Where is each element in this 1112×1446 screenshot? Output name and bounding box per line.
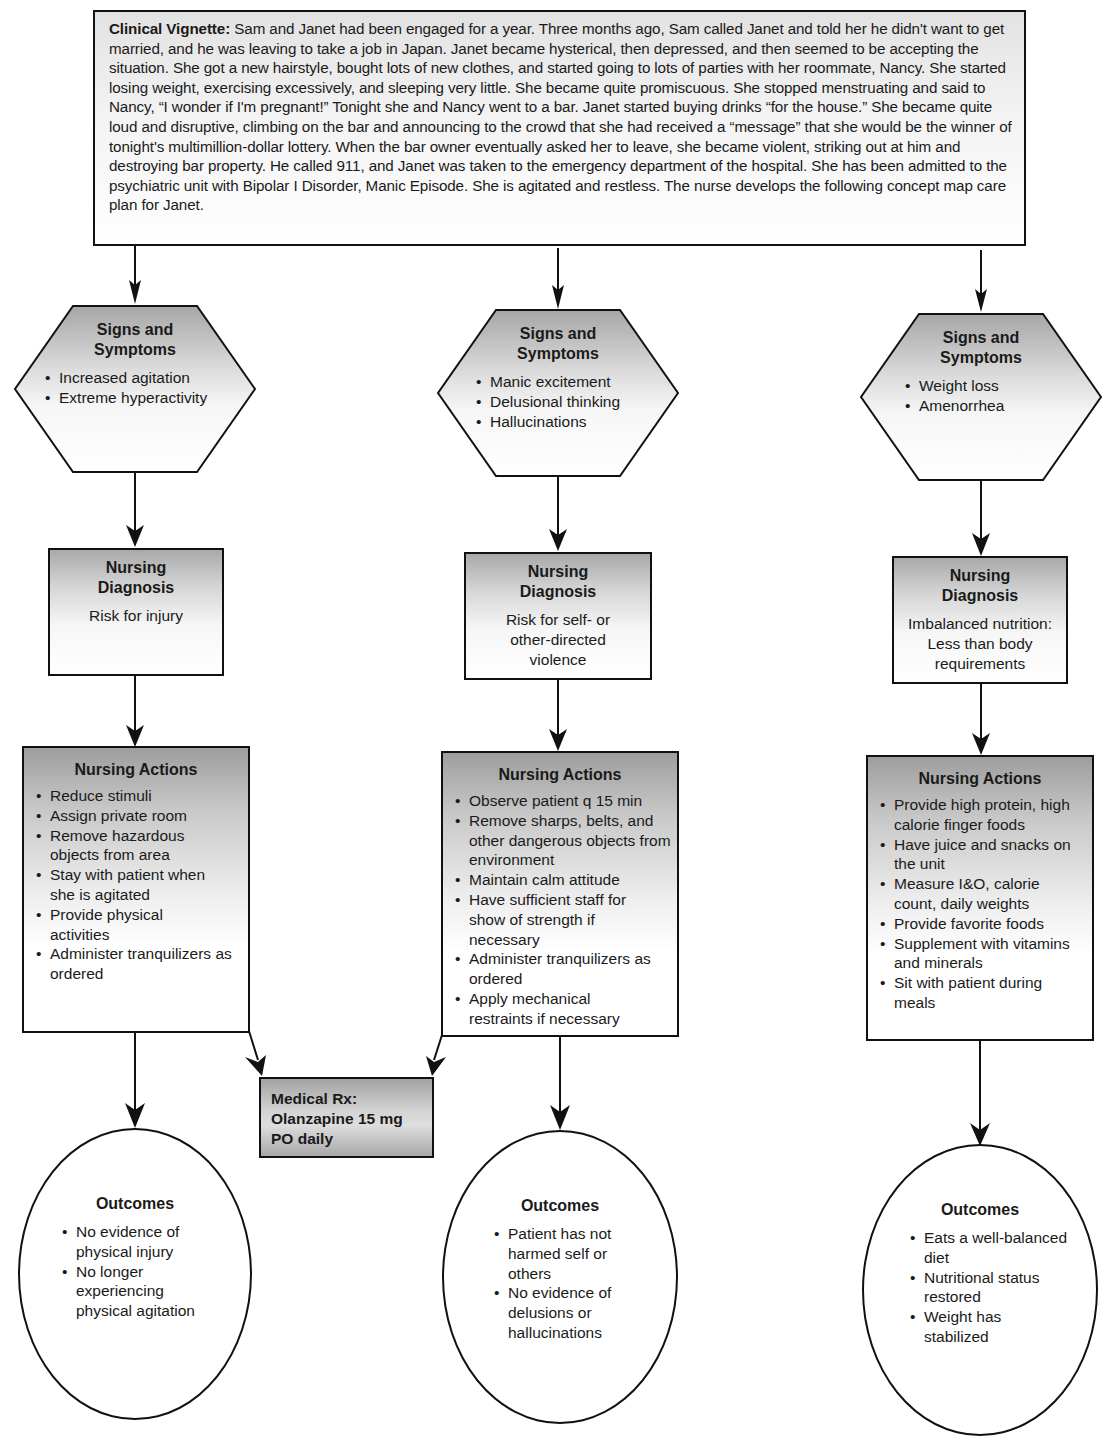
outcome-item: Weight has stabilized <box>908 1307 1034 1347</box>
actions-list: Provide high protein, high calorie finge… <box>878 795 1082 1013</box>
nursing-diagnosis-box-3: Nursing Diagnosis Imbalanced nutrition: … <box>892 556 1068 684</box>
signs-symptoms-hexagon-1: Signs and Symptoms Increased agitation E… <box>13 304 257 474</box>
outcomes-oval-2: Outcomes Patient has not harmed self or … <box>442 1130 678 1424</box>
action-item: Sit with patient during meals <box>878 973 1079 1013</box>
signs-title: Signs and Symptoms <box>926 328 1036 368</box>
sign-item: Weight loss <box>903 376 1103 396</box>
nursing-diagnosis-box-2: Nursing Diagnosis Risk for self- or othe… <box>464 552 652 680</box>
sign-item: Amenorrhea <box>903 396 1103 416</box>
medical-rx-drug: Olanzapine 15 mg <box>271 1109 422 1129</box>
medical-rx-label: Medical Rx: <box>271 1089 422 1109</box>
action-item: Remove sharps, belts, and other dangerou… <box>453 811 674 870</box>
diagnosis-title: Nursing Diagnosis <box>508 562 608 602</box>
signs-title: Signs and Symptoms <box>503 324 613 364</box>
action-item: Have juice and snacks on the unit <box>878 835 1084 875</box>
action-item: Administer tranquilizers as ordered <box>453 949 669 989</box>
action-item: Apply mechanical restraints if necessary <box>453 989 654 1029</box>
action-item: Stay with patient when she is agitated <box>34 865 232 905</box>
action-item: Provide favorite foods <box>878 914 1082 934</box>
outcomes-title: Outcomes <box>444 1196 676 1216</box>
actions-title: Nursing Actions <box>453 765 667 785</box>
action-item: Observe patient q 15 min <box>453 791 667 811</box>
actions-title: Nursing Actions <box>878 769 1082 789</box>
outcome-item: Eats a well-balanced diet <box>908 1228 1074 1268</box>
vignette-text: Sam and Janet had been engaged for a yea… <box>109 20 1012 213</box>
signs-symptoms-hexagon-2: Signs and Symptoms Manic excitement Delu… <box>436 308 680 478</box>
sign-item: Manic excitement <box>474 372 680 392</box>
medical-rx-route: PO daily <box>271 1129 422 1149</box>
signs-list: Increased agitation Extreme hyperactivit… <box>43 368 257 408</box>
action-item: Administer tranquilizers as ordered <box>34 944 250 984</box>
action-item: Assign private room <box>34 806 238 826</box>
outcomes-list: No evidence of physical injury No longer… <box>60 1222 225 1321</box>
action-item: Maintain calm attitude <box>453 870 667 890</box>
actions-title: Nursing Actions <box>34 760 238 780</box>
signs-list: Manic excitement Delusional thinking Hal… <box>474 372 680 431</box>
actions-list: Observe patient q 15 min Remove sharps, … <box>453 791 667 1029</box>
actions-list: Reduce stimuli Assign private room Remov… <box>34 786 238 984</box>
outcomes-oval-3: Outcomes Eats a well-balanced diet Nutri… <box>862 1144 1098 1436</box>
action-item: Provide physical activities <box>34 905 200 945</box>
outcome-item: No longer experiencing physical agitatio… <box>60 1262 216 1321</box>
outcomes-list: Eats a well-balanced diet Nutritional st… <box>908 1228 1058 1347</box>
medical-rx-box: Medical Rx: Olanzapine 15 mg PO daily <box>259 1077 434 1158</box>
outcomes-title: Outcomes <box>864 1200 1096 1220</box>
outcome-item: Nutritional status restored <box>908 1268 1074 1308</box>
outcomes-list: Patient has not harmed self or others No… <box>492 1224 637 1343</box>
nursing-actions-box-3: Nursing Actions Provide high protein, hi… <box>866 755 1094 1041</box>
sign-item: Hallucinations <box>474 412 680 432</box>
action-item: Have sufficient staff for show of streng… <box>453 890 654 949</box>
outcome-item: No evidence of delusions or hallucinatio… <box>492 1283 633 1342</box>
diagnosis-text: Risk for self- or other-directed violenc… <box>493 610 623 670</box>
signs-list: Weight loss Amenorrhea <box>903 376 1103 416</box>
vignette-label: Clinical Vignette: <box>109 20 230 37</box>
clinical-vignette: Clinical Vignette: Sam and Janet had bee… <box>93 10 1026 246</box>
action-item: Measure I&O, calorie count, daily weight… <box>878 874 1069 914</box>
diagnosis-text: Imbalanced nutrition: Less than body req… <box>895 614 1065 674</box>
sign-item: Delusional thinking <box>474 392 680 412</box>
sign-item: Extreme hyperactivity <box>43 388 257 408</box>
diagnosis-title: Nursing Diagnosis <box>86 558 186 598</box>
action-item: Reduce stimuli <box>34 786 238 806</box>
outcome-item: Patient has not harmed self or others <box>492 1224 633 1283</box>
action-item: Provide high protein, high calorie finge… <box>878 795 1094 835</box>
nursing-diagnosis-box-1: Nursing Diagnosis Risk for injury <box>48 548 224 676</box>
outcomes-title: Outcomes <box>20 1194 250 1214</box>
signs-title: Signs and Symptoms <box>80 320 190 360</box>
diagnosis-title: Nursing Diagnosis <box>930 566 1030 606</box>
outcome-item: No evidence of physical injury <box>60 1222 201 1262</box>
action-item: Remove hazardous objects from area <box>34 826 200 866</box>
action-item: Supplement with vitamins and minerals <box>878 934 1084 974</box>
nursing-actions-box-2: Nursing Actions Observe patient q 15 min… <box>441 751 679 1037</box>
outcomes-oval-1: Outcomes No evidence of physical injury … <box>18 1128 252 1420</box>
signs-symptoms-hexagon-3: Signs and Symptoms Weight loss Amenorrhe… <box>859 312 1103 482</box>
sign-item: Increased agitation <box>43 368 257 388</box>
nursing-actions-box-1: Nursing Actions Reduce stimuli Assign pr… <box>22 746 250 1033</box>
diagnosis-text: Risk for injury <box>50 606 222 626</box>
